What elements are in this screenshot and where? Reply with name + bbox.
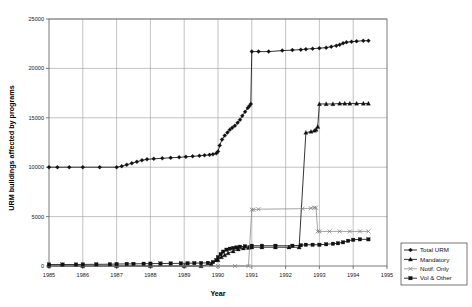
marker-square [142,262,145,265]
x-tick-label: 1986 [77,272,89,278]
legend-label: Mandatory [420,256,450,263]
marker-square [336,242,339,245]
legend-label: Total URM [420,246,449,253]
marker-square [409,277,412,280]
marker-square [199,261,202,264]
x-tick-label: 1989 [178,272,190,278]
y-tick-label: 5000 [32,214,44,220]
marker-square [367,238,370,241]
marker-square [81,263,84,266]
marker-square [206,261,209,264]
marker-square [318,243,321,246]
chart-figure: 0500010000150002000025000 19851986198719… [0,0,472,307]
y-tick-label: 20000 [28,65,44,71]
marker-square [260,244,263,247]
y-tick-label: 10000 [28,164,44,170]
marker-square [149,262,152,265]
marker-square [352,238,355,241]
marker-square [235,246,238,249]
x-tick-label: 1991 [246,272,258,278]
marker-square [232,246,235,249]
marker-square [186,262,189,265]
legend-label: Notif. Only [420,265,450,272]
marker-square [211,260,214,263]
x-tick-label: 1990 [212,272,224,278]
marker-square [324,243,327,246]
x-tick-label: 1985 [43,272,55,278]
marker-square [358,238,361,241]
marker-square [341,241,344,244]
x-tick-label: 1987 [110,272,122,278]
chart-legend: Total URMMandatoryNotif. OnlyVol & Other [401,243,467,285]
marker-square [225,248,228,251]
marker-square [291,244,294,247]
marker-square [159,262,162,265]
marker-square [331,242,334,245]
marker-square [61,263,64,266]
x-tick-label: 1988 [144,272,156,278]
x-tick-label: 1992 [279,272,291,278]
marker-square [125,262,128,265]
marker-square [108,263,111,266]
marker-square [47,263,50,266]
x-axis-title: Year [210,289,225,298]
x-tick-label: 1993 [313,272,325,278]
y-tick-label: 0 [41,263,44,269]
y-tick-label: 25000 [28,16,44,22]
marker-square [95,263,98,266]
marker-square [304,243,307,246]
x-tick-label: 1994 [347,272,359,278]
line-chart: 0500010000150002000025000 19851986198719… [0,0,472,307]
x-tick-label: 1995 [381,272,393,278]
marker-square [169,262,172,265]
marker-square [115,262,118,265]
marker-square [299,244,302,247]
marker-square [179,262,182,265]
marker-square [250,244,253,247]
marker-square [238,245,241,248]
marker-square [311,243,314,246]
marker-square [274,244,277,247]
marker-square [74,263,77,266]
marker-square [193,261,196,264]
marker-square [243,245,246,248]
marker-square [221,250,224,253]
marker-square [132,262,135,265]
y-tick-label: 15000 [28,115,44,121]
legend-label: Vol & Other [420,274,452,281]
y-axis-title: URM buildings affected by programs [7,85,16,210]
marker-square [346,239,349,242]
marker-square [228,247,231,250]
